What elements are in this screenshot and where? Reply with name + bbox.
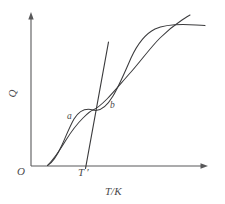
x-axis-label: T/K [105, 186, 122, 197]
figure-container: O T ′ T/K Q a b [0, 0, 225, 204]
curve-b-label: b [110, 101, 115, 111]
x-tick-label-t-prime: T ′ [78, 167, 89, 178]
tangent-line [86, 42, 109, 169]
curve-a-path [48, 24, 206, 165]
x-axis-arrowhead [201, 163, 209, 168]
origin-label: O [17, 166, 25, 177]
curve-b-path [48, 15, 191, 166]
curve-a-label: a [67, 112, 72, 122]
y-axis-arrowhead [28, 12, 33, 20]
y-axis-label: Q [7, 90, 18, 98]
